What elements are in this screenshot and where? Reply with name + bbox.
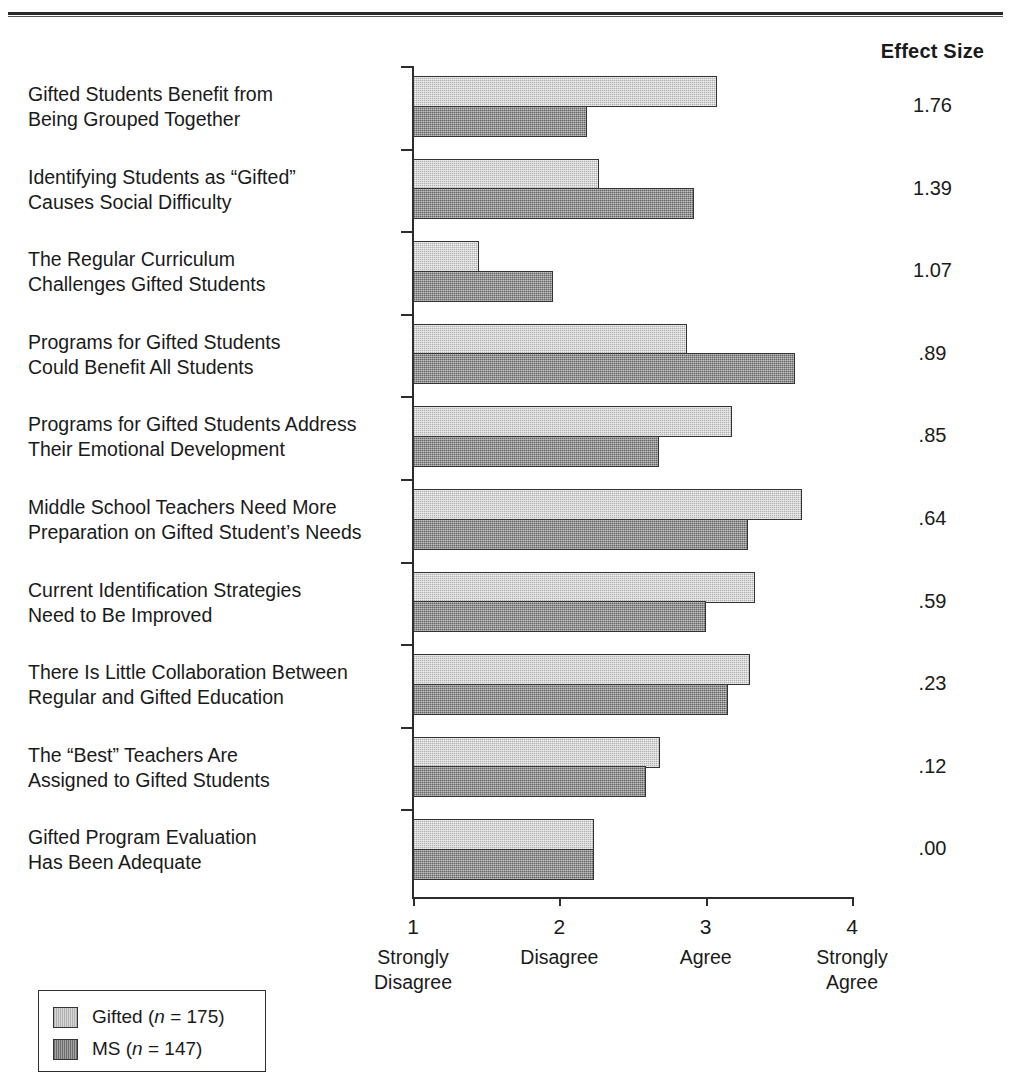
- bar-pair: [413, 159, 694, 220]
- x-tick-number: 2: [519, 915, 599, 939]
- y-axis-tick: [401, 396, 412, 398]
- x-tick-number: 1: [373, 915, 453, 939]
- y-axis-tick: [401, 66, 412, 68]
- item-label: Programs for Gifted Students Could Benef…: [28, 330, 281, 380]
- item-label: Identifying Students as “Gifted” Causes …: [28, 165, 296, 215]
- effect-size-value: 1.39: [860, 177, 1005, 200]
- bar-gifted: [413, 819, 594, 850]
- effect-size-value: .59: [860, 590, 1005, 613]
- bar-pair: [413, 737, 660, 798]
- bar-gifted: [413, 489, 802, 520]
- legend-swatch: [53, 1007, 78, 1028]
- bar-gifted: [413, 159, 599, 190]
- effect-size-value: .12: [860, 755, 1005, 778]
- x-tick-category-label: Agree: [646, 945, 766, 970]
- bar-ms: [413, 436, 659, 467]
- bar-ms: [413, 353, 795, 384]
- x-tick-number: 3: [666, 915, 746, 939]
- item-label: Gifted Students Benefit from Being Group…: [28, 82, 273, 132]
- bar-ms: [413, 601, 706, 632]
- effect-size-value: .85: [860, 424, 1005, 447]
- bar-ms: [413, 766, 646, 797]
- y-axis-tick: [401, 809, 412, 811]
- legend-label: MS (n = 147): [92, 1038, 202, 1060]
- item-label: The Regular Curriculum Challenges Gifted…: [28, 247, 265, 297]
- y-axis-tick: [401, 149, 412, 151]
- effect-size-value: .89: [860, 342, 1005, 365]
- bar-pair: [413, 406, 732, 467]
- bar-pair: [413, 654, 750, 715]
- legend-item: Gifted (n = 175): [53, 1001, 265, 1033]
- effect-size-value: .23: [860, 672, 1005, 695]
- item-label: The “Best” Teachers Are Assigned to Gift…: [28, 743, 270, 793]
- y-axis-tick: [401, 231, 412, 233]
- bar-gifted: [413, 654, 750, 685]
- bar-gifted: [413, 76, 717, 107]
- bar-pair: [413, 489, 802, 550]
- bar-ms: [413, 849, 594, 880]
- bar-ms: [413, 519, 748, 550]
- bar-gifted: [413, 406, 732, 437]
- x-axis-tick: [852, 897, 854, 906]
- bar-pair: [413, 324, 795, 385]
- x-axis-tick: [559, 897, 561, 906]
- bar-gifted: [413, 241, 479, 272]
- x-tick-number: 4: [812, 915, 892, 939]
- item-label: Gifted Program Evaluation Has Been Adequ…: [28, 825, 257, 875]
- item-label: Programs for Gifted Students Address The…: [28, 412, 356, 462]
- x-tick-category-label: Strongly Agree: [792, 945, 912, 995]
- item-label: Middle School Teachers Need More Prepara…: [28, 495, 362, 545]
- effect-size-value: 1.07: [860, 259, 1005, 282]
- bar-ms: [413, 271, 553, 302]
- y-axis-tick: [401, 644, 412, 646]
- effect-size-value: .64: [860, 507, 1005, 530]
- legend-swatch: [53, 1039, 78, 1060]
- y-axis-tick: [401, 314, 412, 316]
- bar-ms: [413, 684, 728, 715]
- bar-ms: [413, 188, 694, 219]
- item-label: There Is Little Collaboration Between Re…: [28, 660, 348, 710]
- bar-pair: [413, 76, 717, 137]
- y-axis-tick: [401, 727, 412, 729]
- x-axis-tick: [706, 897, 708, 906]
- bar-pair: [413, 819, 594, 880]
- bar-chart-plot: Gifted Students Benefit from Being Group…: [0, 0, 1011, 1088]
- x-tick-category-label: Disagree: [499, 945, 619, 970]
- bar-gifted: [413, 737, 660, 768]
- chart-legend: Gifted (n = 175)MS (n = 147): [38, 990, 266, 1072]
- bar-gifted: [413, 572, 755, 603]
- legend-item: MS (n = 147): [53, 1033, 265, 1065]
- y-axis-tick: [401, 479, 412, 481]
- x-tick-category-label: Strongly Disagree: [353, 945, 473, 995]
- item-label: Current Identification Strategies Need t…: [28, 578, 301, 628]
- effect-size-value: 1.76: [860, 94, 1005, 117]
- x-axis-line: [412, 897, 853, 899]
- x-axis-tick: [413, 897, 415, 906]
- bar-ms: [413, 106, 587, 137]
- legend-label: Gifted (n = 175): [92, 1006, 225, 1028]
- bar-pair: [413, 572, 755, 633]
- y-axis-tick: [401, 562, 412, 564]
- effect-size-value: .00: [860, 837, 1005, 860]
- bar-pair: [413, 241, 553, 302]
- bar-gifted: [413, 324, 687, 355]
